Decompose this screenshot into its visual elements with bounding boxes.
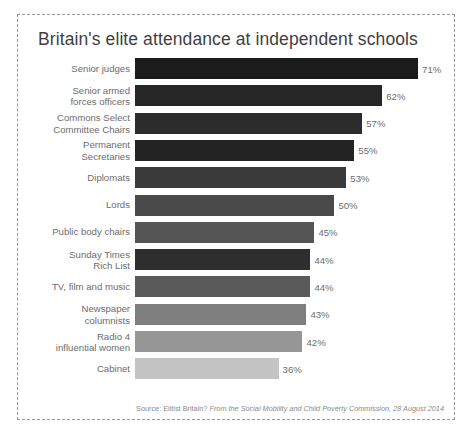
bar-row: Senior judges71% bbox=[18, 55, 454, 82]
bar-track: 62% bbox=[135, 82, 454, 109]
category-label: Commons Select Committee Chairs bbox=[18, 112, 130, 135]
category-label: TV, film and music bbox=[18, 281, 130, 292]
category-label: Senior judges bbox=[18, 63, 130, 74]
category-label: Radio 4 influential women bbox=[18, 330, 130, 353]
bar-track: 36% bbox=[135, 355, 454, 382]
bar bbox=[135, 113, 362, 134]
bar bbox=[135, 358, 279, 379]
bar-row: Public body chairs45% bbox=[18, 219, 454, 246]
bar-value-label: 55% bbox=[358, 145, 377, 156]
bar-track: 55% bbox=[135, 137, 454, 164]
bar-track: 45% bbox=[135, 219, 454, 246]
source-note: Source: Elitist Britain? From the Social… bbox=[136, 404, 444, 413]
bar bbox=[135, 276, 310, 297]
bar-track: 43% bbox=[135, 301, 454, 328]
bar-row: Radio 4 influential women42% bbox=[18, 328, 454, 355]
bar-track: 53% bbox=[135, 164, 454, 191]
bar-row: TV, film and music44% bbox=[18, 273, 454, 300]
bar bbox=[135, 222, 314, 243]
source-prefix: Source: Elitist Britain? bbox=[136, 404, 209, 413]
bar-row: Cabinet36% bbox=[18, 355, 454, 382]
bar-track: 57% bbox=[135, 110, 454, 137]
bar bbox=[135, 140, 354, 161]
bar bbox=[135, 58, 418, 79]
bar-value-label: 44% bbox=[314, 254, 333, 265]
bar-value-label: 42% bbox=[306, 336, 325, 347]
bar-value-label: 57% bbox=[366, 118, 385, 129]
category-label: Newspaper columnists bbox=[18, 303, 130, 326]
category-label: Lords bbox=[18, 199, 130, 210]
bar-row: Sunday Times Rich List44% bbox=[18, 246, 454, 273]
bar-value-label: 36% bbox=[283, 363, 302, 374]
bar-value-label: 62% bbox=[386, 90, 405, 101]
category-label: Sunday Times Rich List bbox=[18, 248, 130, 271]
bar-row: Permanent Secretaries55% bbox=[18, 137, 454, 164]
bar-track: 44% bbox=[135, 273, 454, 300]
plot-area: Senior judges71%Senior armed forces offi… bbox=[18, 55, 454, 385]
bar-value-label: 53% bbox=[350, 172, 369, 183]
bar bbox=[135, 85, 382, 106]
bar-value-label: 43% bbox=[310, 309, 329, 320]
bar-row: Newspaper columnists43% bbox=[18, 301, 454, 328]
category-label: Senior armed forces officers bbox=[18, 84, 130, 107]
bar-row: Senior armed forces officers62% bbox=[18, 82, 454, 109]
category-label: Permanent Secretaries bbox=[18, 139, 130, 162]
category-label: Cabinet bbox=[18, 363, 130, 374]
bar bbox=[135, 167, 346, 188]
category-label: Public body chairs bbox=[18, 227, 130, 238]
bar bbox=[135, 304, 306, 325]
bar bbox=[135, 331, 302, 352]
bar-value-label: 44% bbox=[314, 281, 333, 292]
bar bbox=[135, 249, 310, 270]
bar-track: 42% bbox=[135, 328, 454, 355]
bar-track: 71% bbox=[135, 55, 454, 82]
bar-row: Lords50% bbox=[18, 192, 454, 219]
bar-row: Diplomats53% bbox=[18, 164, 454, 191]
bar-track: 50% bbox=[135, 192, 454, 219]
bar-value-label: 50% bbox=[338, 200, 357, 211]
source-italic: From the Social Mobility and Child Pover… bbox=[209, 404, 444, 413]
chart-title: Britain's elite attendance at independen… bbox=[38, 29, 418, 50]
bar-value-label: 71% bbox=[422, 63, 441, 74]
bar bbox=[135, 195, 334, 216]
bar-row: Commons Select Committee Chairs57% bbox=[18, 110, 454, 137]
chart-figure: Britain's elite attendance at independen… bbox=[17, 14, 455, 420]
bar-track: 44% bbox=[135, 246, 454, 273]
category-label: Diplomats bbox=[18, 172, 130, 183]
bar-value-label: 45% bbox=[318, 227, 337, 238]
